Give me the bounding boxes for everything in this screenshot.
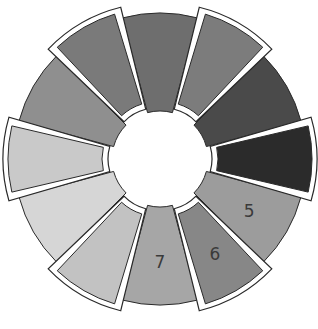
segmented-ring-diagram: 567 <box>0 0 318 329</box>
segment-label-7: 7 <box>155 252 166 272</box>
segment-label-6: 6 <box>210 244 221 264</box>
segment-label-5: 5 <box>244 201 255 221</box>
ring-svg: 567 <box>0 0 318 329</box>
